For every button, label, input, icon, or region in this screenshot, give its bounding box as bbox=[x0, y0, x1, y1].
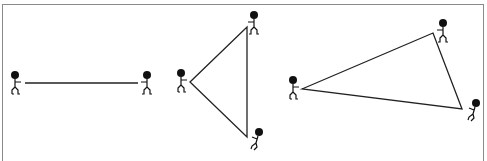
panel-line bbox=[11, 71, 152, 94]
stick-figure bbox=[251, 128, 263, 150]
stick-figure bbox=[289, 76, 299, 99]
stick-figure bbox=[437, 19, 448, 42]
panel-triangle-isosceles bbox=[177, 11, 263, 150]
panel-triangle-scalene bbox=[289, 19, 480, 121]
stick-figure bbox=[141, 71, 152, 94]
stick-figure bbox=[248, 11, 259, 34]
stick-figure bbox=[177, 69, 187, 92]
rope-triangle bbox=[190, 27, 247, 137]
rope-triangle bbox=[302, 33, 462, 109]
stick-figure bbox=[11, 71, 21, 94]
stick-figure bbox=[468, 99, 480, 121]
rope-diagram bbox=[0, 0, 487, 161]
